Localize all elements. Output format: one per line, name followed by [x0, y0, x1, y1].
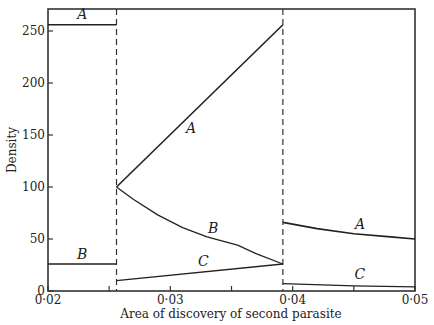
curve-a-region-2: [117, 25, 283, 187]
curve-label-c: C: [355, 266, 366, 282]
curve-label-c: C: [198, 253, 209, 269]
y-axis-title: Density: [5, 127, 19, 173]
x-tick-label: 0·02: [35, 293, 62, 307]
curve-label-a: A: [75, 6, 87, 22]
curve-label-b: B: [207, 220, 218, 236]
x-tick-label: 0·05: [402, 293, 429, 307]
density-chart: 0501001502002500·020·030·040·05 ABABCAC …: [0, 0, 434, 325]
x-tick-label: 0·03: [157, 293, 184, 307]
curve-label-a: A: [353, 216, 365, 232]
plot-frame: [48, 9, 415, 291]
curve-label-b: B: [76, 246, 87, 262]
y-tick-label: 150: [22, 128, 45, 142]
y-tick-label: 50: [30, 232, 45, 246]
axes: [48, 9, 415, 291]
y-tick-label: 250: [22, 24, 45, 38]
curve-label-a: A: [184, 120, 196, 136]
curve-a-region-3: [283, 222, 415, 239]
y-tick-label: 200: [22, 76, 45, 90]
x-axis-title: Area of discovery of second parasite: [119, 307, 341, 321]
region-boundaries: [117, 9, 283, 291]
curve-c-region-3: [283, 284, 415, 287]
curves: [48, 25, 415, 287]
y-tick-label: 100: [22, 180, 45, 194]
x-tick-label: 0·04: [279, 293, 306, 307]
